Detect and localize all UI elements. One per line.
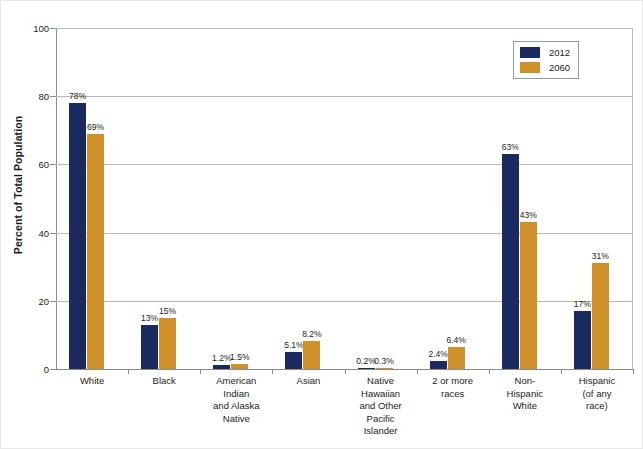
plot-area: 78%69%13%15%1.2%1.5%5.1%8.2%0.2%0.3%2.4%… (56, 28, 633, 369)
x-tick-mark (200, 369, 201, 374)
x-axis-label-line: 2 or more (417, 375, 489, 388)
bar-2060[interactable]: 0.3% (376, 368, 393, 369)
x-axis-labels: WhiteBlackAmericanIndianand AlaskaNative… (56, 375, 633, 447)
bar-2060[interactable]: 69% (87, 134, 104, 369)
x-axis-label-4: NativeHawaiianand OtherPacificIslander (345, 375, 417, 438)
x-tick-mark (345, 369, 346, 374)
legend: 20122060 (513, 41, 579, 79)
bar-2012[interactable]: 2.4% (430, 361, 447, 369)
x-axis-label-3: Asian (272, 375, 344, 388)
bar-value-label: 78% (69, 91, 86, 101)
bar-value-label: 17% (574, 299, 591, 309)
y-tick-label-40: 40 (23, 227, 49, 238)
bar-group: 0.2%0.3% (345, 28, 417, 369)
x-axis-label-line: Islander (345, 425, 417, 438)
y-tick-label-100: 100 (23, 23, 49, 34)
bar-chart-figure: Percent of Total Population 020406080100… (0, 0, 643, 449)
legend-swatch-2012 (520, 47, 540, 58)
bar-value-label: 1.2% (212, 353, 231, 363)
legend-swatch-2060 (520, 62, 540, 73)
x-axis-label-line: Black (128, 375, 200, 388)
x-axis-label-line: Native (200, 413, 272, 426)
x-axis-label-line: races (417, 388, 489, 401)
x-tick-mark (633, 369, 634, 374)
x-axis-label-line: Hispanic (561, 375, 633, 388)
bar-value-label: 1.5% (230, 352, 249, 362)
x-axis-label-6: Non-HispanicWhite (489, 375, 561, 413)
x-axis-label-line: Native (345, 375, 417, 388)
x-axis-label-line: White (489, 400, 561, 413)
bar-2060[interactable]: 43% (520, 222, 537, 369)
x-axis-label-line: American (200, 375, 272, 388)
x-axis-label-line: Hispanic (489, 388, 561, 401)
x-axis-label-1: Black (128, 375, 200, 388)
x-tick-mark (128, 369, 129, 374)
bar-2012[interactable]: 78% (69, 103, 86, 369)
bar-group: 63%43% (489, 28, 561, 369)
bar-2060[interactable]: 15% (159, 318, 176, 369)
x-axis-label-line: Indian (200, 388, 272, 401)
y-tick-label-20: 20 (23, 295, 49, 306)
bar-group: 17%31% (561, 28, 633, 369)
bar-value-label: 2.4% (428, 349, 447, 359)
bar-2060[interactable]: 31% (592, 263, 609, 369)
bar-value-label: 63% (502, 142, 519, 152)
x-axis-label-line: and Alaska (200, 400, 272, 413)
x-axis-label-line: Pacific (345, 413, 417, 426)
bar-value-label: 31% (592, 251, 609, 261)
x-axis-label-0: White (56, 375, 128, 388)
bar-group: 2.4%6.4% (417, 28, 489, 369)
x-axis-label-line: and Other (345, 400, 417, 413)
x-axis-label-line: Hawaiian (345, 388, 417, 401)
legend-label-2060: 2060 (549, 62, 570, 73)
bar-value-label: 6.4% (446, 335, 465, 345)
bar-2060[interactable]: 6.4% (448, 347, 465, 369)
y-tick-label-60: 60 (23, 159, 49, 170)
legend-label-2012: 2012 (549, 47, 570, 58)
bar-2012[interactable]: 1.2% (213, 365, 230, 369)
bar-value-label: 5.1% (284, 340, 303, 350)
y-tick-label-0: 0 (23, 364, 49, 375)
x-axis-label-5: 2 or moreraces (417, 375, 489, 400)
x-axis-label-line: race) (561, 400, 633, 413)
bar-2012[interactable]: 13% (141, 325, 158, 369)
bar-group: 5.1%8.2% (272, 28, 344, 369)
bar-value-label: 15% (159, 306, 176, 316)
bar-2060[interactable]: 1.5% (231, 364, 248, 369)
legend-item-2060[interactable]: 2060 (520, 62, 570, 73)
x-tick-mark (417, 369, 418, 374)
legend-item-2012[interactable]: 2012 (520, 47, 570, 58)
bar-value-label: 0.3% (374, 356, 393, 366)
bar-2060[interactable]: 8.2% (303, 341, 320, 369)
y-tick-label-80: 80 (23, 91, 49, 102)
bar-value-label: 43% (520, 210, 537, 220)
bar-value-label: 0.2% (356, 356, 375, 366)
bar-2012[interactable]: 5.1% (285, 352, 302, 369)
bar-value-label: 13% (141, 313, 158, 323)
bar-2012[interactable]: 0.2% (358, 368, 375, 369)
bar-value-label: 8.2% (302, 329, 321, 339)
x-axis-label-2: AmericanIndianand AlaskaNative (200, 375, 272, 425)
bar-group: 1.2%1.5% (200, 28, 272, 369)
bars-layer: 78%69%13%15%1.2%1.5%5.1%8.2%0.2%0.3%2.4%… (56, 28, 633, 369)
bar-value-label: 69% (87, 122, 104, 132)
x-axis-label-line: Asian (272, 375, 344, 388)
x-axis-label-7: Hispanic(of anyrace) (561, 375, 633, 413)
bar-group: 13%15% (128, 28, 200, 369)
x-axis-label-line: (of any (561, 388, 633, 401)
x-axis-label-line: Non- (489, 375, 561, 388)
x-tick-mark (561, 369, 562, 374)
x-axis-label-line: White (56, 375, 128, 388)
bar-2012[interactable]: 63% (502, 154, 519, 369)
x-tick-mark (272, 369, 273, 374)
x-tick-mark (489, 369, 490, 374)
bar-group: 78%69% (56, 28, 128, 369)
y-axis-ticks: 020406080100 (1, 1, 49, 449)
bar-2012[interactable]: 17% (574, 311, 591, 369)
